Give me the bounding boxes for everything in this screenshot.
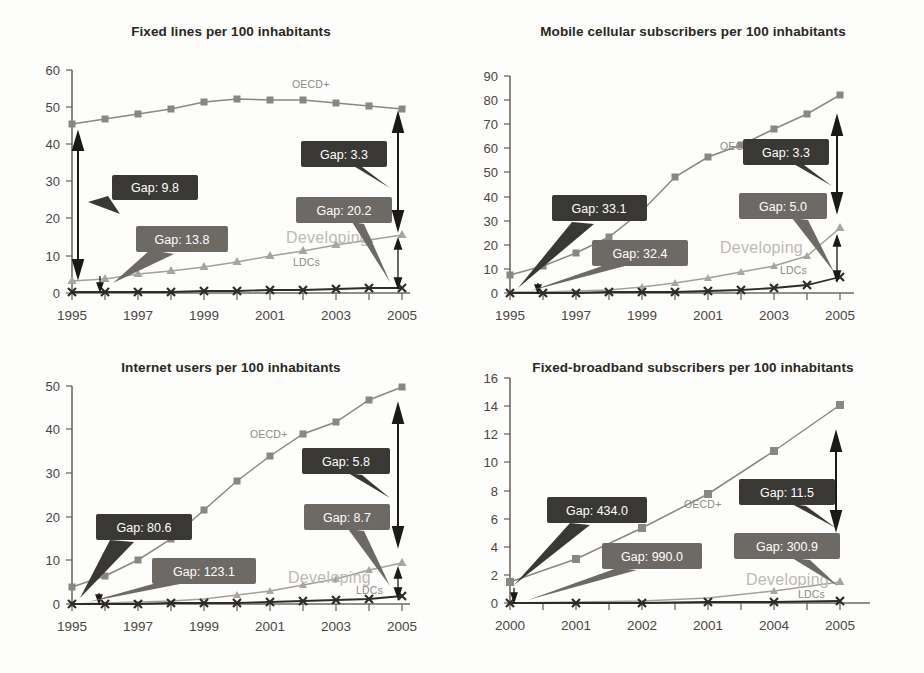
y-tick-40: 40: [484, 190, 498, 205]
plot-mobile-cellular: 90 80 70 60 50 40 30 20 10 0: [462, 0, 924, 336]
y-tick-60: 60: [484, 141, 498, 156]
y-tick-20: 20: [46, 510, 60, 525]
y-tick-8: 8: [491, 484, 498, 499]
x-tick-2001: 2001: [255, 308, 285, 323]
y-tick-50: 50: [46, 379, 60, 394]
y-tick-12: 12: [484, 427, 498, 442]
annotation-gap-9-8-text: Gap: 9.8: [131, 181, 179, 195]
y-axis-ticks: [504, 76, 510, 293]
series-label-oecd: OECD+: [250, 428, 287, 440]
y-tick-16: 16: [484, 371, 498, 386]
panel-mobile-cellular: Mobile cellular subscribers per 100 inha…: [462, 0, 924, 336]
x-tick-2003: 2003: [321, 308, 351, 323]
x-tick-2001: 2001: [561, 618, 591, 633]
x-axis-labels: 2000 2001 2002 2001 2004 2005: [495, 618, 855, 633]
annotation-gap-33-1-text: Gap: 33.1: [572, 202, 627, 216]
y-axis-labels: 60 50 40 30 20 10 0: [46, 63, 60, 301]
series-markers-oecd: [69, 96, 406, 128]
y-tick-30: 30: [484, 214, 498, 229]
x-tick-1995: 1995: [57, 308, 87, 323]
y-tick-14: 14: [484, 399, 498, 414]
annotation-gap-20-2-text: Gap: 20.2: [317, 204, 372, 218]
annotation-gap-990-0-text: Gap: 990.0: [621, 550, 683, 564]
x-tick-2004: 2004: [759, 618, 790, 633]
series-label-ldcs: LDCs: [798, 588, 825, 600]
panel-fixed-lines: Fixed lines per 100 inhabitants 60 50 40…: [0, 0, 462, 336]
y-tick-30: 30: [46, 466, 60, 481]
annotation-gap-3-3-text: Gap: 3.3: [320, 148, 368, 162]
y-tick-50: 50: [46, 100, 60, 115]
x-axis-labels: 1995 1997 1999 2001 2003 2005: [57, 619, 417, 634]
y-tick-0: 0: [53, 597, 60, 612]
y-tick-10: 10: [484, 455, 498, 470]
annotation-gap-5-0-text: Gap: 5.0: [759, 200, 807, 214]
y-tick-0: 0: [53, 286, 60, 301]
y-tick-70: 70: [484, 117, 498, 132]
x-tick-2001: 2001: [693, 308, 723, 323]
x-tick-2005: 2005: [825, 308, 855, 323]
x-tick-2005: 2005: [387, 619, 417, 634]
y-tick-40: 40: [46, 422, 60, 437]
annotation-gap-5-8-text: Gap: 5.8: [322, 455, 370, 469]
gap-arrow-right-small: [834, 236, 841, 281]
x-axis-ticks: [510, 603, 840, 610]
y-tick-60: 60: [46, 63, 60, 78]
x-tick-2005: 2005: [387, 308, 417, 323]
y-axis-labels: 50 40 30 20 10 0: [46, 379, 60, 612]
chart-grid: Fixed lines per 100 inhabitants 60 50 40…: [0, 0, 924, 673]
x-tick-1995: 1995: [57, 619, 87, 634]
annotation-gap-8-7-text: Gap: 8.7: [323, 511, 371, 525]
plot-fixed-lines: 60 50 40 30 20 10 0: [0, 0, 462, 336]
y-axis-ticks: [66, 70, 72, 293]
panel-internet-users: Internet users per 100 inhabitants 50 40…: [0, 336, 462, 673]
y-tick-20: 20: [46, 211, 60, 226]
x-tick-2003: 2003: [759, 308, 789, 323]
gap-arrow-right: [393, 405, 403, 545]
x-tick-1999: 1999: [627, 308, 657, 323]
y-tick-2: 2: [491, 568, 498, 583]
annotation-gap-434-0-text: Gap: 434.0: [566, 504, 628, 518]
x-tick-1997: 1997: [561, 308, 591, 323]
x-axis-labels: 1995 1997 1999 2001 2003 2005: [495, 308, 855, 323]
x-axis-ticks: [510, 293, 840, 300]
annotation-gap-300-9-text: Gap: 300.9: [756, 540, 818, 554]
gap-arrow-right-small: [395, 239, 402, 288]
annotation-gap-11-5-text: Gap: 11.5: [760, 486, 814, 500]
series-label-ldcs: LDCs: [780, 264, 807, 276]
y-tick-20: 20: [484, 238, 498, 253]
y-tick-0: 0: [491, 596, 498, 611]
gap-arrow-right: [393, 114, 403, 229]
x-tick-1995: 1995: [495, 308, 525, 323]
x-tick-2003: 2003: [321, 619, 351, 634]
series-line-oecd: [72, 99, 402, 124]
y-tick-6: 6: [491, 512, 498, 527]
plot-internet-users: 50 40 30 20 10 0 1995: [0, 336, 462, 673]
series-line-oecd: [72, 387, 402, 587]
series-label-ldcs: LDCs: [293, 256, 320, 268]
series-label-oecd: OECD+: [292, 78, 329, 90]
series-label-developing: Developing: [286, 229, 369, 246]
annotation-gap-3-3: Gap: 3.3: [301, 141, 390, 188]
series-label-developing: Developing: [746, 571, 829, 588]
y-tick-4: 4: [491, 540, 498, 555]
y-tick-40: 40: [46, 137, 60, 152]
x-tick-2002: 2002: [627, 618, 657, 633]
series-label-developing: Developing: [720, 239, 803, 256]
plot-fixed-broadband: 16 14 12 10 8 6 4 2 0: [462, 336, 924, 673]
y-tick-10: 10: [46, 553, 60, 568]
x-tick-2001: 2001: [255, 619, 285, 634]
x-tick-1997: 1997: [123, 619, 153, 634]
annotation-gap-9-8: Gap: 9.8: [88, 175, 198, 214]
annotation-gap-3-3: Gap: 3.3: [743, 139, 832, 186]
x-tick-1999: 1999: [189, 308, 219, 323]
x-tick-2003: 2001: [693, 618, 723, 633]
x-axis-ticks: [72, 604, 402, 611]
y-axis-ticks: [504, 378, 510, 603]
y-tick-80: 80: [484, 93, 498, 108]
x-tick-1997: 1997: [123, 308, 153, 323]
y-axis-ticks: [66, 386, 72, 604]
y-axis-labels: 16 14 12 10 8 6 4 2 0: [484, 371, 498, 611]
annotation-gap-13-8-text: Gap: 13.8: [155, 233, 210, 247]
y-tick-10: 10: [484, 262, 498, 277]
x-tick-2000: 2000: [495, 618, 525, 633]
